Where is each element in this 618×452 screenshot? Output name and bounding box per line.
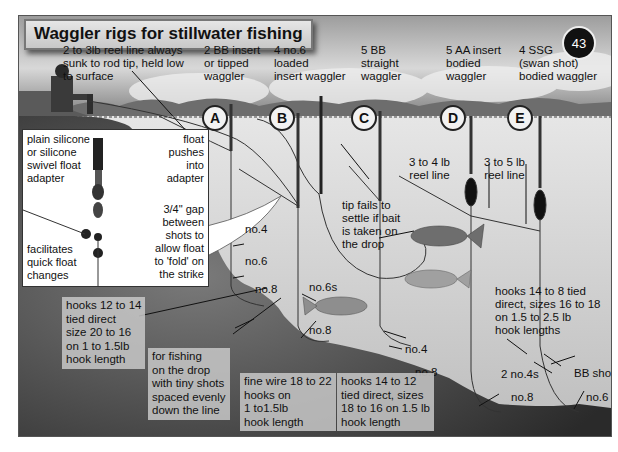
reel-line-e-note: 3 to 5 lb reel line bbox=[484, 156, 525, 182]
shot-label-b-no8: no.8 bbox=[309, 324, 331, 337]
rig-b-marker: B bbox=[269, 105, 295, 131]
rig-c-description: 5 BB straight waggler bbox=[361, 44, 401, 83]
shot-label-e-no6: no.6 bbox=[586, 391, 608, 404]
shot-label-b-no6s: no.6s bbox=[309, 281, 337, 294]
drop-fishing-note: for fishing on the drop with tiny shots … bbox=[148, 348, 230, 420]
hook-note-c: hooks 14 to 12 tied direct, sizes 18 to … bbox=[337, 373, 434, 431]
rig-a-description: 2 BB insert or tipped waggler bbox=[204, 44, 260, 83]
shot-label-c-no4: no.4 bbox=[405, 343, 427, 356]
gap-label: 3/4" gap between shots to allow float to… bbox=[155, 203, 204, 281]
rig-d-description: 5 AA insert bodied waggler bbox=[446, 44, 501, 83]
hook-note-de: hooks 14 to 8 tied direct, sizes 16 to 1… bbox=[495, 285, 600, 337]
hook-note-b: fine wire 18 to 22 hooks on 1 to1.5lb ho… bbox=[240, 373, 336, 431]
shot-label-a-no6: no.6 bbox=[245, 255, 267, 268]
rig-c-marker: C bbox=[351, 105, 377, 131]
rig-a-marker: A bbox=[202, 105, 228, 131]
shot-label-e-bb: BB shot bbox=[574, 367, 612, 380]
shot-label-a-no4: no.4 bbox=[245, 223, 267, 236]
changes-label: facilitates quick float changes bbox=[27, 243, 77, 282]
adapter-label: plain silicone or silicone swivel float … bbox=[27, 133, 90, 185]
shot-label-d-no4s: 2 no.4s bbox=[501, 368, 539, 381]
hook-note-a: hooks 12 to 14 tied direct size 20 to 16… bbox=[62, 297, 145, 369]
diagram-frame: Waggler rigs for stillwater fishing 43 2… bbox=[18, 15, 612, 437]
float-adapter-inset: plain silicone or silicone swivel float … bbox=[22, 129, 209, 287]
shot-label-d-no8: no.8 bbox=[511, 391, 533, 404]
rig-b-description: 4 no.6 loaded insert waggler bbox=[274, 44, 346, 83]
float-pushes-label: float pushes into adapter bbox=[167, 133, 204, 185]
rig-e-description: 4 SSG (swan shot) bodied waggler bbox=[519, 44, 597, 83]
reel-line-d-note: 3 to 4 lb reel line bbox=[409, 156, 450, 182]
rig-e-marker: E bbox=[507, 105, 533, 131]
reel-line-note: 2 to 3lb reel line always sunk to rod ti… bbox=[63, 44, 184, 83]
shot-label-a-no8: no.8 bbox=[255, 283, 277, 296]
tip-fails-note: tip fails to settle if bait is taken on … bbox=[342, 199, 400, 251]
rig-d-marker: D bbox=[440, 105, 466, 131]
